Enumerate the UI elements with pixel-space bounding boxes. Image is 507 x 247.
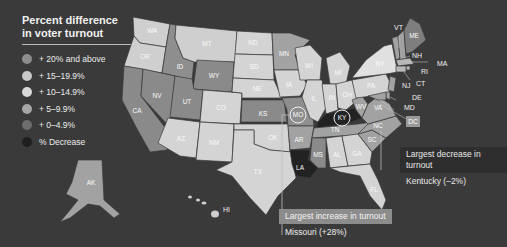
state-de[interactable] xyxy=(386,92,390,100)
ct-leader xyxy=(404,72,410,80)
state-ct[interactable] xyxy=(396,66,406,72)
label-ri: RI xyxy=(421,68,428,75)
label-sc: SC xyxy=(367,136,376,143)
label-ar: AR xyxy=(294,136,303,143)
label-ia: IA xyxy=(286,81,293,88)
label-al: AL xyxy=(333,151,341,158)
label-wi: WI xyxy=(305,62,313,69)
label-md: MD xyxy=(404,104,415,111)
label-nj: NJ xyxy=(402,82,411,89)
decrease-callout-detail: Kentucky (–2%) xyxy=(400,173,507,190)
label-ny: NY xyxy=(375,60,385,67)
label-mn: MN xyxy=(279,50,289,57)
decrease-callout-heading: Largest decrease in turnout xyxy=(400,147,507,173)
state-hi[interactable] xyxy=(188,196,219,218)
label-wv: WV xyxy=(356,103,367,110)
label-wa: WA xyxy=(147,27,158,34)
label-fl: FL xyxy=(370,186,378,193)
label-nv: NV xyxy=(152,92,162,99)
increase-callout: Largest increase in turnout Missouri (+2… xyxy=(279,209,392,241)
state-nj[interactable] xyxy=(388,76,396,92)
state-ak[interactable] xyxy=(60,160,120,222)
label-ct: CT xyxy=(416,80,426,87)
label-hi: HI xyxy=(223,206,230,213)
label-ne: NE xyxy=(252,85,262,92)
label-id: ID xyxy=(177,63,184,70)
label-ut: UT xyxy=(183,98,192,105)
label-ak: AK xyxy=(87,179,96,186)
label-sd: SD xyxy=(249,63,258,70)
label-oh: OH xyxy=(342,91,352,98)
label-mt: MT xyxy=(202,40,211,47)
label-ga: GA xyxy=(352,150,362,157)
label-va: VA xyxy=(374,104,383,111)
label-il: IL xyxy=(311,95,317,102)
state-mi[interactable] xyxy=(326,52,350,84)
label-vt: VT xyxy=(394,24,404,31)
label-la: LA xyxy=(296,164,305,171)
label-or: OR xyxy=(140,53,150,60)
label-nc: NC xyxy=(373,122,383,129)
label-ks: KS xyxy=(259,110,268,117)
label-tx: TX xyxy=(254,168,263,175)
label-ky: KY xyxy=(338,114,347,121)
label-nh: NH xyxy=(412,52,422,59)
label-nd: ND xyxy=(248,39,258,46)
label-me: ME xyxy=(409,32,419,39)
label-mi: MI xyxy=(334,69,341,76)
label-tn: TN xyxy=(331,126,340,133)
us-map: WA OR CA ID NV MT WY UT AZ CO NM ND SD N… xyxy=(0,0,507,247)
label-pa: PA xyxy=(367,82,376,89)
label-de: DE xyxy=(412,94,422,101)
increase-callout-detail: Missouri (+28%) xyxy=(279,224,392,241)
label-az: AZ xyxy=(177,135,185,142)
label-wy: WY xyxy=(209,72,220,79)
increase-callout-heading: Largest increase in turnout xyxy=(279,209,392,224)
label-co: CO xyxy=(216,104,226,111)
de-leader xyxy=(390,97,396,100)
label-nm: NM xyxy=(209,139,219,146)
label-ok: OK xyxy=(268,134,278,141)
decrease-callout: Largest decrease in turnout Kentucky (–2… xyxy=(400,147,507,190)
label-dc: DC xyxy=(406,116,420,127)
label-ca: CA xyxy=(132,107,142,114)
label-ma: MA xyxy=(437,60,448,67)
state-ri[interactable] xyxy=(406,66,410,70)
label-in: IN xyxy=(329,94,336,101)
label-mo: MO xyxy=(293,111,303,118)
label-ms: MS xyxy=(313,151,323,158)
